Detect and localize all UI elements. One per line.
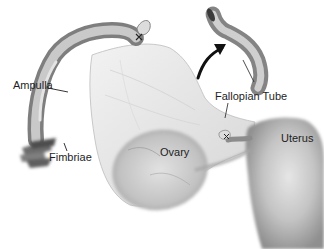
anatomy-illustration (0, 0, 324, 249)
diagram-canvas: Ampulla Fimbriae Ovary Fallopian Tube Ut… (0, 0, 324, 249)
fimbriae-leader (64, 143, 67, 151)
label-fallopian-tube: Fallopian Tube (215, 91, 287, 102)
label-uterus: Uterus (281, 133, 313, 144)
label-fimbriae: Fimbriae (49, 152, 92, 163)
proximal-tube-stump (228, 138, 250, 140)
removal-arrow (198, 48, 222, 78)
label-ovary: Ovary (160, 147, 189, 158)
label-ampulla: Ampulla (13, 80, 53, 91)
